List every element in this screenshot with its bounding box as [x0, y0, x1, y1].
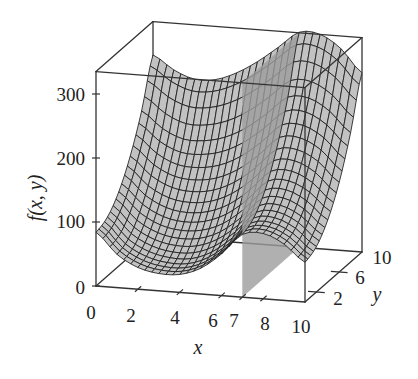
x-tick-label-10: 10 — [292, 316, 311, 337]
y-tick-label-2: 2 — [333, 288, 343, 309]
z-tick-label-0: 0 — [76, 277, 86, 298]
x-tick-label-4: 4 — [170, 307, 180, 328]
y-tick — [308, 291, 325, 292]
box-edge-top-back — [153, 22, 362, 38]
z-tick-label-100: 100 — [57, 211, 86, 232]
x-tick-label-2: 2 — [126, 305, 136, 326]
z-tick-label-200: 200 — [57, 148, 86, 169]
y-tick-label-6: 6 — [355, 267, 365, 288]
x-axis-label: x — [193, 336, 203, 358]
y-axis-label: y — [371, 283, 382, 306]
x-tick-label-0: 0 — [86, 302, 96, 323]
y-tick — [331, 271, 348, 272]
x-axis-line — [96, 286, 305, 302]
x-tick-label-8: 8 — [260, 313, 270, 334]
x-tick-label-6: 6 — [208, 310, 218, 331]
box-edge-top-left — [96, 22, 153, 72]
z-axis-label: f(x, y) — [24, 174, 47, 221]
x-tick-label-7: 7 — [229, 310, 239, 331]
z-tick-label-300: 300 — [57, 84, 86, 105]
y-tick-label-10: 10 — [373, 247, 392, 268]
surface-plot: 0 100 200 300 0 2 4 6 7 8 10 2 6 10 x y … — [0, 0, 418, 379]
